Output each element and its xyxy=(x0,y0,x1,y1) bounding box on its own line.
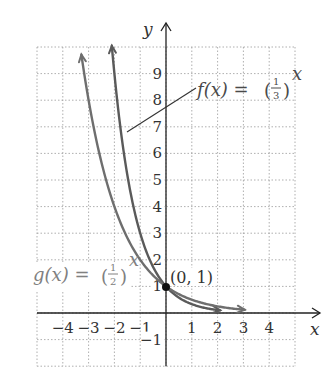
x-tick-label: −3 xyxy=(78,319,100,337)
x-axis-label: x xyxy=(310,319,320,339)
x-tick-label: 3 xyxy=(239,319,249,337)
g-function-label: g(x) = ( 1 2 ) x xyxy=(32,249,139,290)
y-tick-label: 9 xyxy=(152,65,162,83)
g-paren-open: ( xyxy=(101,266,108,287)
point-0-1-label: (0, 1) xyxy=(170,268,213,287)
x-tick-label: −4 xyxy=(52,319,74,337)
g-base-den: 2 xyxy=(110,276,116,287)
f-exponent: x xyxy=(292,63,302,84)
y-tick-label: 6 xyxy=(152,144,162,162)
y-axis-label: y xyxy=(142,19,153,39)
g-label-prefix: g(x) = xyxy=(33,264,90,285)
g-exponent: x xyxy=(129,249,139,270)
x-tick-label: 2 xyxy=(213,319,223,337)
axes xyxy=(37,23,320,366)
y-tick-label: 5 xyxy=(152,171,162,189)
g-paren-close: ) xyxy=(120,266,127,287)
f-base-num: 1 xyxy=(273,76,279,87)
f-paren-close: ) xyxy=(283,80,290,101)
y-tick-label: 3 xyxy=(152,224,162,242)
y-tick-label: 4 xyxy=(152,198,162,216)
f-label-prefix: f(x) = xyxy=(195,79,249,100)
f-base-den: 3 xyxy=(273,90,279,101)
g-base-num: 1 xyxy=(110,262,116,273)
f-function-label: f(x) = ( 1 3 ) x xyxy=(195,63,302,101)
x-tick-label: −2 xyxy=(103,319,125,337)
point-0-1-marker xyxy=(162,283,170,291)
x-tick-label: 4 xyxy=(264,319,274,337)
f-paren-open: ( xyxy=(264,80,271,101)
y-tick-label: −1 xyxy=(140,331,162,349)
x-tick-label: 1 xyxy=(187,319,197,337)
y-tick-label: 8 xyxy=(152,91,162,109)
exponential-graph: −4−3−2−11234−1123456789 f(x) = ( 1 3 ) x… xyxy=(0,0,331,388)
y-tick-label: 7 xyxy=(152,118,162,136)
